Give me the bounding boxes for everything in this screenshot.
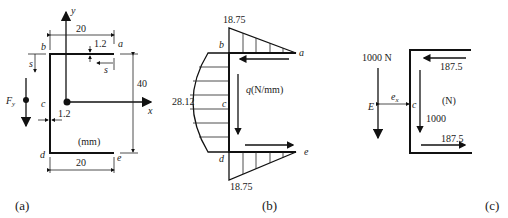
point-a-label: a bbox=[299, 47, 304, 58]
force-fy-label: Fy bbox=[5, 95, 16, 108]
x-axis-label: x bbox=[147, 105, 153, 116]
caption-c: (c) bbox=[485, 198, 499, 213]
ex-label: ex bbox=[391, 91, 399, 104]
point-b-label: b bbox=[219, 39, 224, 50]
thickness-top-label: 1.2 bbox=[94, 38, 107, 49]
shear-flow-diagram: y x 20 b a 1.2 s 40 s Fy c bbox=[0, 0, 508, 218]
point-E-label: E bbox=[367, 101, 374, 112]
force-label: 1000 N bbox=[362, 52, 392, 63]
bottom-flange-distribution bbox=[229, 152, 296, 180]
bottom-value-label: 18.75 bbox=[230, 181, 253, 192]
top-value-label: 18.75 bbox=[223, 14, 246, 25]
caption-a: (a) bbox=[15, 198, 29, 213]
dim-top-label: 20 bbox=[76, 23, 86, 34]
point-d-label: d bbox=[40, 149, 46, 160]
top-flange-force-label: 187.5 bbox=[440, 61, 463, 72]
web-force-label: 1000 bbox=[426, 113, 446, 124]
point-e-label: e bbox=[117, 152, 122, 163]
dim-height-label: 40 bbox=[137, 78, 147, 89]
point-c-label: c bbox=[222, 98, 227, 109]
panel-b: 18.75 b a 28.12 q(N/mm) c d e 18.75 (b) bbox=[172, 14, 309, 213]
top-flange-distribution bbox=[229, 28, 296, 53]
thickness-web-label: 1.2 bbox=[58, 108, 71, 119]
web-value-label: 28.12 bbox=[172, 96, 195, 107]
units-label: (N) bbox=[442, 95, 456, 107]
point-c-label: c bbox=[41, 98, 46, 109]
channel-section bbox=[229, 53, 296, 152]
dim-bottom-label: 20 bbox=[76, 157, 86, 168]
point-a-label: a bbox=[118, 38, 123, 49]
caption-b: (b) bbox=[262, 198, 277, 213]
bottom-flange-force-label: 187.5 bbox=[441, 133, 464, 144]
y-axis-label: y bbox=[70, 5, 76, 16]
point-c-label: c bbox=[412, 99, 417, 110]
panel-a: y x 20 b a 1.2 s 40 s Fy c bbox=[5, 5, 153, 213]
centroid-dot bbox=[64, 99, 71, 106]
s-left-label: s bbox=[29, 58, 33, 69]
units-label: (mm) bbox=[78, 136, 100, 148]
point-b-label: b bbox=[41, 41, 46, 52]
q-label: q(N/mm) bbox=[246, 84, 283, 96]
point-d-label: d bbox=[219, 153, 225, 164]
point-e-label: e bbox=[304, 146, 309, 157]
s-top-label: s bbox=[104, 64, 108, 75]
panel-c: 1000 N E ex c 187.5 (N) 1000 187.5 (c) bbox=[362, 50, 499, 213]
